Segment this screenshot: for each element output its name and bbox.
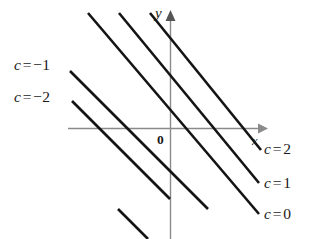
curve-label-c-0: c=0 [264, 206, 291, 222]
curve-label-value: 2 [283, 140, 291, 157]
plot-canvas [0, 0, 314, 239]
level-curves-group [70, 13, 261, 239]
curve-label-value: 1 [283, 174, 291, 191]
curve-label-value: 0 [283, 205, 291, 222]
curve-label-c-2: c=2 [264, 141, 291, 157]
curve-label-equals: = [21, 56, 33, 73]
curve-label-c-1: c=1 [264, 175, 291, 191]
level-curve-c-minus-1 [70, 71, 208, 209]
curve-label-c-minus-1: c=−1 [14, 57, 50, 73]
curve-label-equals: = [271, 205, 283, 222]
curve-label-c-minus-2: c=−2 [14, 89, 50, 105]
level-curve-c-minus-2 [72, 101, 170, 199]
curve-label-value: −1 [33, 56, 50, 73]
axes-group [68, 10, 268, 239]
origin-label: 0 [157, 133, 164, 147]
curve-label-equals: = [271, 140, 283, 157]
level-curve-c-1 [119, 13, 259, 183]
curve-label-equals: = [21, 88, 33, 105]
x-axis-label: x [252, 135, 258, 148]
y-axis-arrowhead [166, 10, 176, 21]
x-axis-arrowhead [258, 124, 268, 134]
level-curve-unlabelled-lower [118, 209, 148, 239]
level-curve-c-2 [150, 13, 261, 150]
curve-label-equals: = [271, 174, 283, 191]
curve-label-value: −2 [33, 88, 50, 105]
y-axis-label: y [155, 6, 162, 21]
level-curves-figure: y x 0 c=−1 c=−2 c=2 c=1 c=0 [0, 0, 314, 239]
